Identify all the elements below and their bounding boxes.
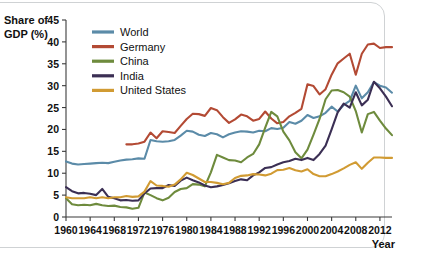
y-tick-label: 35 bbox=[47, 58, 59, 70]
y-tick-label: 15 bbox=[47, 145, 59, 157]
series-line-united-states bbox=[66, 157, 392, 198]
legend-label-india: India bbox=[120, 70, 145, 82]
y-tick-label: 5 bbox=[53, 189, 59, 201]
y-tick-label: 0 bbox=[53, 211, 59, 223]
legend-label-united-states: United States bbox=[120, 84, 187, 96]
y-tick-label: 20 bbox=[47, 123, 59, 135]
chart-legend: WorldGermanyChinaIndiaUnited States bbox=[92, 26, 187, 96]
x-tick-label: 2012 bbox=[368, 224, 392, 236]
x-tick-label: 1984 bbox=[199, 224, 223, 236]
y-tick-label: 40 bbox=[47, 36, 59, 48]
x-tick-label: 1968 bbox=[103, 224, 127, 236]
x-tick-label: 1996 bbox=[272, 224, 296, 236]
chart-figure: Share of GDP (%) Year 051015202530354045… bbox=[0, 0, 421, 259]
y-tick-label: 10 bbox=[47, 167, 59, 179]
series-lines-group bbox=[66, 44, 392, 209]
x-tick-label: 1972 bbox=[127, 224, 151, 236]
x-tick-label: 1980 bbox=[175, 224, 199, 236]
y-axis-tick-group: 051015202530354045 bbox=[47, 14, 66, 223]
x-tick-label: 2004 bbox=[320, 224, 344, 236]
legend-label-china: China bbox=[120, 55, 150, 67]
y-axis-title-line2: GDP (%) bbox=[4, 28, 48, 40]
x-tick-label: 1992 bbox=[248, 224, 272, 236]
x-tick-label: 1964 bbox=[78, 224, 102, 236]
legend-label-world: World bbox=[120, 26, 149, 38]
x-axis-tick-group: 1960196419681972197619801984198819921996… bbox=[54, 217, 391, 236]
y-tick-label: 45 bbox=[47, 14, 59, 26]
x-axis-title: Year bbox=[372, 238, 396, 250]
series-line-china bbox=[66, 90, 392, 209]
y-tick-label: 30 bbox=[47, 80, 59, 92]
x-tick-label: 2000 bbox=[296, 224, 320, 236]
x-tick-label: 2008 bbox=[344, 224, 368, 236]
line-chart: Share of GDP (%) Year 051015202530354045… bbox=[0, 0, 421, 259]
x-tick-label: 1960 bbox=[54, 224, 78, 236]
x-tick-label: 1988 bbox=[223, 224, 247, 236]
legend-label-germany: Germany bbox=[120, 41, 166, 53]
y-axis-title-line1: Share of bbox=[4, 14, 48, 26]
y-tick-label: 25 bbox=[47, 102, 59, 114]
x-tick-label: 1976 bbox=[151, 224, 175, 236]
